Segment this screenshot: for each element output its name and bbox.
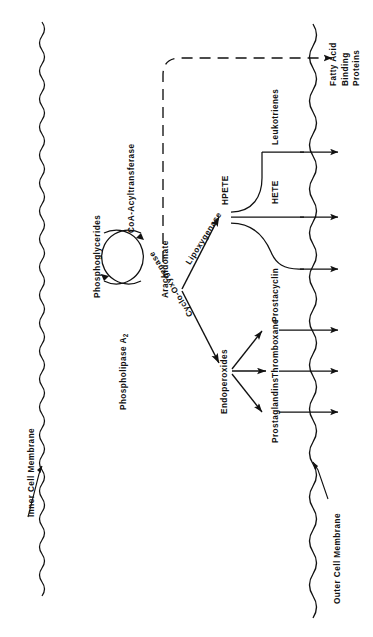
node-prostaglandins: Prostaglandins [272, 378, 280, 443]
hpete-membrane-exit-arrows [300, 152, 338, 269]
inner-cell-membrane-label: Inner Cell Membrane [28, 428, 36, 517]
pathway-diagram: Inner Cell Membrane Outer Cell Membrane … [0, 0, 373, 637]
node-hete: HETE [272, 180, 280, 204]
node-endoperoxides: Endoperoxides [221, 349, 229, 414]
outer-cell-membrane-label: Outer Cell Membrane [334, 513, 342, 604]
enzyme-coa-acyltransferase: CoA-Acyltransferase [128, 143, 136, 233]
node-hpete: HPETE [222, 175, 230, 205]
outer-cell-membrane-line [310, 24, 317, 618]
node-leukotrienes: Leukotrienes [272, 89, 280, 145]
fabp-line-3: Proteins [351, 42, 363, 86]
node-thromboxane: Thromboxane [272, 319, 280, 378]
prostanoid-membrane-exit-arrows [279, 330, 338, 412]
hpete-branch-curves [231, 152, 304, 269]
fatty-acid-binding-dashed-path [163, 58, 332, 262]
fabp-line-2: Binding [340, 42, 352, 86]
enzyme-phospholipase-a2: Phospholipase A2 [120, 333, 128, 410]
node-prostacyclin: Prostacyclin [272, 268, 280, 322]
inner-cell-membrane-line [40, 22, 45, 596]
fatty-acid-binding-proteins-label: Fatty Acid Binding Proteins [328, 42, 363, 86]
phospholipase-a2-subscript: 2 [122, 333, 129, 337]
recycle-cycle-arrows [101, 230, 144, 284]
node-phosphoglycerides: Phosphoglycerides [94, 215, 102, 298]
endoperoxides-branch-arrows [232, 331, 266, 412]
phospholipase-a2-text: Phospholipase A [119, 337, 128, 410]
fabp-line-1: Fatty Acid [328, 42, 340, 86]
